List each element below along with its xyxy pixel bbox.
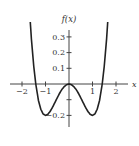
y-tick-label: 0.2 [52, 48, 65, 57]
x-tick-label: −1 [40, 87, 52, 96]
y-tick-label: 0.3 [52, 33, 65, 42]
function-plot: −2−1120.30.20.1−0.2xf(x) [0, 0, 139, 146]
x-tick-label: −2 [16, 87, 28, 96]
x-tick-label: 1 [90, 87, 95, 96]
x-axis-label: x [132, 80, 137, 89]
y-tick-label: 0.1 [52, 64, 65, 73]
x-tick-label: 2 [113, 87, 118, 96]
y-axis-label: f(x) [61, 14, 77, 24]
axes [10, 30, 128, 127]
